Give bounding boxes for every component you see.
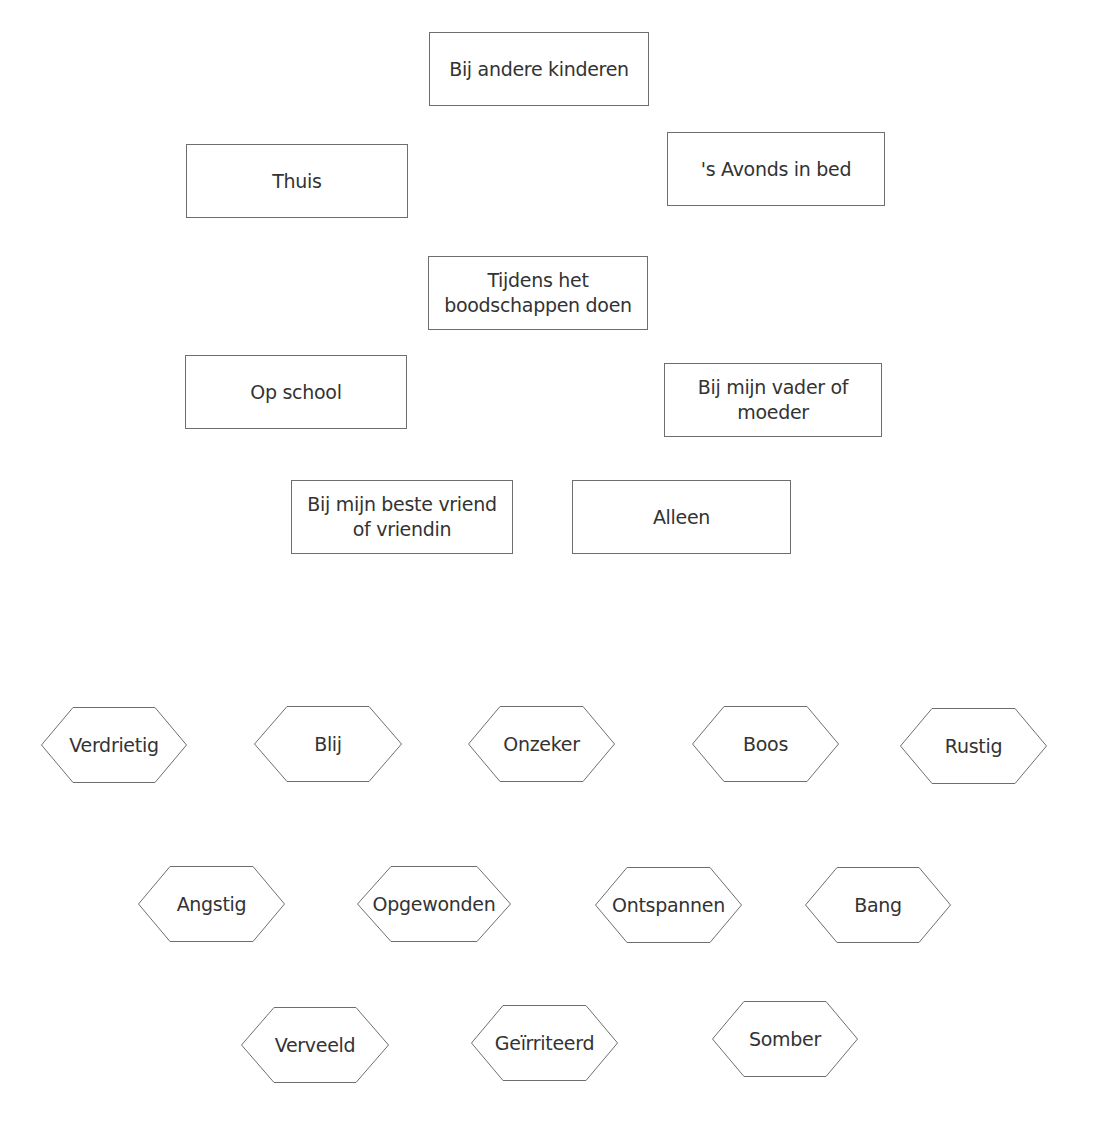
emotion-label: Opgewonden xyxy=(373,893,496,915)
emotion-label: Geïrriteerd xyxy=(495,1032,594,1054)
emotion-card-rustig[interactable]: Rustig xyxy=(900,708,1047,784)
emotion-label: Angstig xyxy=(177,893,247,915)
place-label: Bij mijn beste vriend of vriendin xyxy=(300,492,504,542)
emotion-label: Blij xyxy=(314,733,342,755)
emotion-label: Onzeker xyxy=(503,733,579,755)
emotion-card-onzeker[interactable]: Onzeker xyxy=(468,706,615,782)
emotion-label: Boos xyxy=(743,733,788,755)
place-card-boodschappen-doen[interactable]: Tijdens het boodschappen doen xyxy=(428,256,648,330)
place-card-vader-of-moeder[interactable]: Bij mijn vader of moeder xyxy=(664,363,882,437)
place-card-op-school[interactable]: Op school xyxy=(185,355,407,429)
emotion-card-angstig[interactable]: Angstig xyxy=(138,866,285,942)
emotion-card-ontspannen[interactable]: Ontspannen xyxy=(595,867,742,943)
place-label: 's Avonds in bed xyxy=(701,157,851,182)
place-label: Bij andere kinderen xyxy=(449,57,629,82)
emotion-label: Rustig xyxy=(945,735,1002,757)
place-card-beste-vriend[interactable]: Bij mijn beste vriend of vriendin xyxy=(291,480,513,554)
emotion-label: Somber xyxy=(749,1028,821,1050)
emotion-label: Verdrietig xyxy=(69,734,158,756)
emotion-card-blij[interactable]: Blij xyxy=(254,706,402,782)
place-label: Op school xyxy=(250,380,341,405)
emotion-card-geirriteerd[interactable]: Geïrriteerd xyxy=(471,1005,618,1081)
emotion-card-opgewonden[interactable]: Opgewonden xyxy=(357,866,511,942)
place-label: Tijdens het boodschappen doen xyxy=(437,268,639,318)
emotion-card-boos[interactable]: Boos xyxy=(692,706,839,782)
emotion-card-somber[interactable]: Somber xyxy=(712,1001,858,1077)
emotion-label: Bang xyxy=(854,894,902,916)
emotion-card-verveeld[interactable]: Verveeld xyxy=(241,1007,389,1083)
place-label: Alleen xyxy=(653,505,710,530)
place-card-thuis[interactable]: Thuis xyxy=(186,144,408,218)
place-label: Thuis xyxy=(272,169,321,194)
place-card-avonds-in-bed[interactable]: 's Avonds in bed xyxy=(667,132,885,206)
emotion-label: Verveeld xyxy=(275,1034,356,1056)
emotion-card-bang[interactable]: Bang xyxy=(805,867,951,943)
emotion-card-verdrietig[interactable]: Verdrietig xyxy=(41,707,187,783)
place-card-alleen[interactable]: Alleen xyxy=(572,480,791,554)
place-label: Bij mijn vader of moeder xyxy=(673,375,873,425)
emotion-label: Ontspannen xyxy=(612,894,725,916)
place-card-bij-andere-kinderen[interactable]: Bij andere kinderen xyxy=(429,32,649,106)
